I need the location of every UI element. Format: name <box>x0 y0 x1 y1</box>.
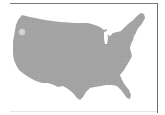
us-silhouette[interactable] <box>13 13 145 100</box>
us-map <box>0 0 165 115</box>
location-marker[interactable] <box>19 29 25 35</box>
